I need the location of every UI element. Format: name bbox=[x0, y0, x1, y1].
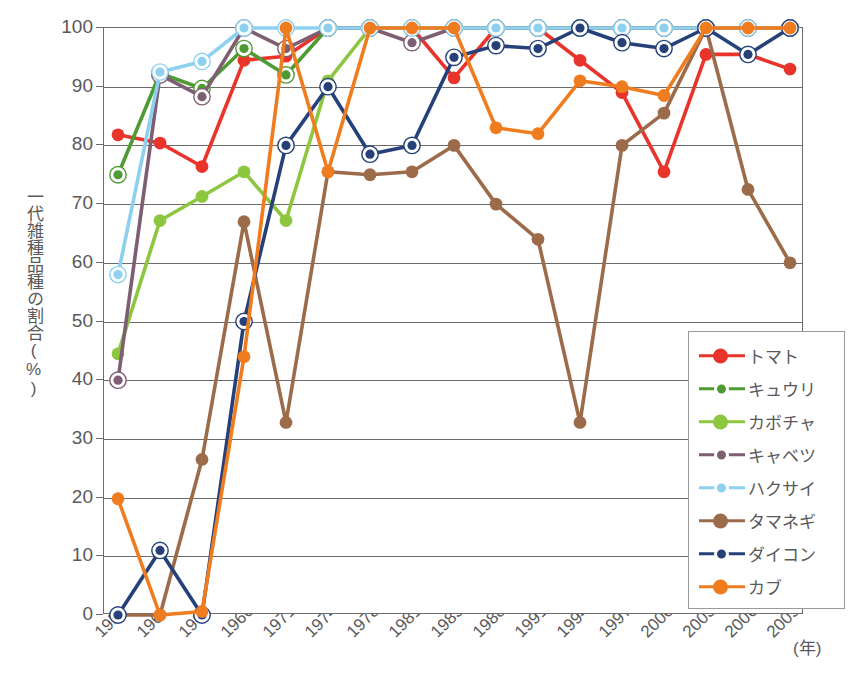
data-point bbox=[616, 80, 629, 93]
data-point bbox=[616, 139, 629, 152]
data-point bbox=[533, 44, 542, 53]
legend-swatch-icon bbox=[699, 413, 745, 431]
data-point bbox=[448, 22, 461, 35]
legend-label: キャベツ bbox=[748, 442, 816, 467]
data-point bbox=[113, 376, 122, 385]
y-axis-title: 一代雑種品種の割合(%) bbox=[8, 188, 42, 398]
y-axis-tick-label: 30 bbox=[33, 427, 93, 449]
y-axis-tick-mark bbox=[96, 203, 103, 204]
legend-item-キャベツ[interactable]: キャベツ bbox=[689, 438, 844, 471]
y-axis-tick-mark bbox=[96, 438, 103, 439]
legend-item-トマト[interactable]: トマト bbox=[689, 339, 844, 372]
data-point bbox=[196, 190, 209, 203]
data-point bbox=[532, 127, 545, 140]
data-point bbox=[112, 492, 125, 505]
data-point bbox=[490, 121, 503, 134]
data-point bbox=[658, 89, 671, 102]
data-point bbox=[155, 546, 164, 555]
legend-item-カブ[interactable]: カブ bbox=[689, 570, 844, 603]
legend-swatch-icon bbox=[699, 545, 745, 563]
data-point bbox=[196, 160, 209, 173]
data-point bbox=[196, 605, 209, 618]
legend-swatch-icon bbox=[699, 512, 745, 530]
data-point bbox=[784, 256, 797, 269]
legend-label: ハクサイ bbox=[748, 475, 816, 500]
legend-item-ハクサイ[interactable]: ハクサイ bbox=[689, 471, 844, 504]
y-axis-tick-label: 40 bbox=[33, 368, 93, 390]
legend-swatch-icon bbox=[699, 479, 745, 497]
data-point bbox=[658, 165, 671, 178]
legend-marker bbox=[714, 447, 729, 462]
data-point bbox=[407, 38, 416, 47]
y-axis-tick-label: 70 bbox=[33, 192, 93, 214]
data-point bbox=[238, 215, 251, 228]
y-axis-tick-label: 100 bbox=[33, 16, 93, 38]
data-point bbox=[364, 22, 377, 35]
y-axis-tick-mark bbox=[96, 321, 103, 322]
data-point bbox=[784, 63, 797, 76]
legend-marker bbox=[714, 546, 729, 561]
data-point bbox=[280, 416, 293, 429]
data-point bbox=[659, 23, 668, 32]
data-point bbox=[448, 71, 461, 84]
legend-swatch-icon bbox=[699, 347, 745, 365]
legend-swatch-icon bbox=[699, 380, 745, 398]
data-point bbox=[617, 23, 626, 32]
data-point bbox=[281, 141, 290, 150]
data-point bbox=[154, 137, 167, 150]
data-point bbox=[449, 53, 458, 62]
data-point bbox=[575, 23, 584, 32]
x-axis-unit-label: (年) bbox=[793, 634, 821, 659]
data-point bbox=[406, 165, 419, 178]
data-point bbox=[658, 107, 671, 120]
legend-label: キュウリ bbox=[748, 376, 816, 401]
y-axis-tick-mark bbox=[96, 27, 103, 28]
legend-label: カボチャ bbox=[748, 409, 816, 434]
y-axis-tick-label: 80 bbox=[33, 133, 93, 155]
data-point bbox=[113, 610, 122, 619]
data-point bbox=[574, 54, 587, 67]
data-point bbox=[197, 92, 206, 101]
data-point bbox=[239, 44, 248, 53]
data-point bbox=[322, 165, 335, 178]
data-point bbox=[659, 44, 668, 53]
data-point bbox=[406, 22, 419, 35]
data-point bbox=[112, 128, 125, 141]
y-axis-tick-label: 20 bbox=[33, 486, 93, 508]
data-point bbox=[574, 74, 587, 87]
data-point bbox=[281, 70, 290, 79]
data-point bbox=[448, 139, 461, 152]
data-point bbox=[113, 170, 122, 179]
legend-item-タマネギ[interactable]: タマネギ bbox=[689, 504, 844, 537]
y-axis-tick-label: 90 bbox=[33, 75, 93, 97]
legend-swatch-icon bbox=[699, 446, 745, 464]
data-point bbox=[323, 82, 332, 91]
data-point bbox=[742, 22, 755, 35]
legend-label: カブ bbox=[748, 574, 782, 599]
y-axis-tick-label: 50 bbox=[33, 310, 93, 332]
data-point bbox=[532, 233, 545, 246]
data-point bbox=[155, 67, 164, 76]
data-point bbox=[154, 609, 167, 622]
legend-marker bbox=[713, 414, 728, 429]
legend-marker bbox=[714, 480, 729, 495]
y-axis-tick-label: 10 bbox=[33, 544, 93, 566]
legend-label: タマネギ bbox=[748, 508, 816, 533]
data-point bbox=[323, 23, 332, 32]
legend-item-キュウリ[interactable]: キュウリ bbox=[689, 372, 844, 405]
data-point bbox=[743, 50, 752, 59]
legend: トマトキュウリカボチャキャベツハクサイタマネギダイコンカブ bbox=[688, 331, 845, 609]
y-axis-tick-label: 60 bbox=[33, 251, 93, 273]
data-point bbox=[280, 214, 293, 227]
y-axis-tick-mark bbox=[96, 144, 103, 145]
data-point bbox=[407, 141, 416, 150]
legend-item-カボチャ[interactable]: カボチャ bbox=[689, 405, 844, 438]
y-axis-tick-mark bbox=[96, 555, 103, 556]
data-point bbox=[238, 350, 251, 363]
legend-label: トマト bbox=[748, 343, 799, 368]
legend-item-ダイコン[interactable]: ダイコン bbox=[689, 537, 844, 570]
data-point bbox=[533, 23, 542, 32]
data-point bbox=[490, 198, 503, 211]
legend-label: ダイコン bbox=[748, 541, 816, 566]
data-point bbox=[239, 23, 248, 32]
